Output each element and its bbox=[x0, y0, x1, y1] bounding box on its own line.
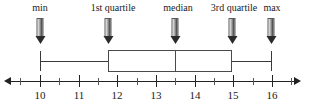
tick-minor bbox=[253, 78, 254, 85]
arrow-head-down-icon bbox=[171, 36, 181, 44]
boxplot-figure: min 1st quartile median 3rd quartile max bbox=[0, 0, 310, 107]
arrow-head-down-icon bbox=[267, 36, 277, 44]
tick-label-15: 15 bbox=[228, 89, 239, 101]
annotation-label-median: median bbox=[163, 2, 192, 14]
annotation-label-1st-quartile: 1st quartile bbox=[91, 2, 136, 14]
tick-label-11: 11 bbox=[74, 89, 85, 101]
tick-minor bbox=[175, 78, 176, 85]
tick-minor bbox=[291, 78, 292, 85]
tick-major-13 bbox=[156, 75, 157, 87]
pointer-arrow-3rd-quartile bbox=[228, 18, 237, 44]
whisker-cap-max bbox=[271, 51, 272, 71]
tick-major-11 bbox=[79, 75, 80, 87]
pointer-arrow-min bbox=[36, 18, 45, 44]
tick-label-16: 16 bbox=[267, 89, 278, 101]
axis-line bbox=[10, 81, 298, 82]
annotation-label-min: min bbox=[32, 2, 48, 14]
tick-major-16 bbox=[272, 75, 273, 87]
tick-minor bbox=[214, 78, 215, 85]
tick-label-12: 12 bbox=[112, 89, 123, 101]
arrow-shaft bbox=[105, 18, 112, 37]
pointer-arrow-max bbox=[267, 18, 276, 44]
pointer-arrow-median bbox=[171, 18, 180, 44]
tick-label-14: 14 bbox=[190, 89, 201, 101]
arrow-shaft bbox=[172, 18, 179, 37]
axis-arrow-right-icon bbox=[294, 77, 301, 85]
axis-arrow-left-icon bbox=[4, 77, 11, 85]
tick-minor bbox=[98, 78, 99, 85]
tick-major-12 bbox=[117, 75, 118, 87]
tick-major-10 bbox=[40, 75, 41, 87]
tick-minor bbox=[59, 78, 60, 85]
arrow-head-down-icon bbox=[228, 36, 238, 44]
annotation-label-3rd-quartile: 3rd quartile bbox=[211, 2, 257, 14]
whisker-right bbox=[232, 61, 271, 62]
tick-minor bbox=[20, 78, 21, 85]
tick-major-14 bbox=[195, 75, 196, 87]
arrow-shaft bbox=[37, 18, 44, 37]
whisker-left bbox=[40, 61, 108, 62]
arrow-shaft bbox=[268, 18, 275, 37]
arrow-shaft bbox=[229, 18, 236, 37]
median-line bbox=[175, 50, 176, 72]
tick-minor bbox=[137, 78, 138, 85]
tick-label-13: 13 bbox=[151, 89, 162, 101]
tick-label-10: 10 bbox=[35, 89, 46, 101]
annotation-label-max: max bbox=[263, 2, 280, 14]
arrow-head-down-icon bbox=[104, 36, 114, 44]
pointer-arrow-1st-quartile bbox=[104, 18, 113, 44]
box-iqr bbox=[108, 50, 232, 72]
tick-major-15 bbox=[233, 75, 234, 87]
arrow-head-down-icon bbox=[36, 36, 46, 44]
